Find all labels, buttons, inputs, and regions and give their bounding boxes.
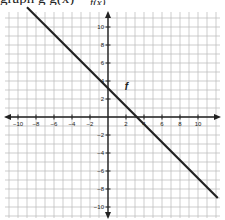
y-tick-label: −8 [97,186,105,192]
coordinate-plane: −10−8−6−4−2246810108642−2−4−6−8−10 f [0,0,225,220]
y-tick-label: 10 [97,24,104,30]
y-axis-down-arrow-icon [105,212,111,219]
y-tick-label: −6 [97,168,105,174]
y-tick-label: −4 [97,150,105,156]
y-tick-label: −2 [97,132,105,138]
y-tick-label: −10 [94,204,105,210]
x-tick-label: −8 [33,121,41,127]
x-axis-left-arrow-icon [4,114,11,120]
x-tick-label: −6 [51,121,59,127]
x-axis-right-arrow-icon [214,114,221,120]
axes [4,11,221,219]
x-tick-label: −2 [87,121,95,127]
y-axis-up-arrow-icon [105,11,111,18]
x-tick-label: −10 [13,121,24,127]
grid-lines [5,12,220,218]
x-tick-label: −4 [69,121,77,127]
x-tick-label: 10 [195,121,202,127]
